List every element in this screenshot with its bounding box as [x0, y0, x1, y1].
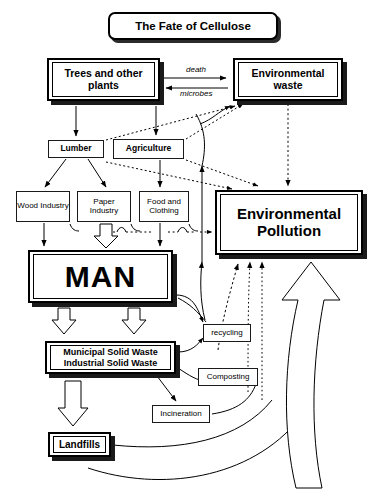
edge-msw-recycling	[178, 338, 203, 352]
edge-man-recycling	[176, 295, 203, 322]
node-lumber: Lumber	[48, 140, 104, 158]
node-environmental-pollution-label: Environmental Pollution	[220, 194, 358, 251]
node-incineration-label: Incineration	[160, 410, 201, 419]
node-municipal-solid-waste-label: Municipal Solid Waste	[63, 347, 158, 357]
node-environmental-waste: Environmental waste	[233, 58, 343, 101]
edge-envwaste-curve	[196, 114, 204, 166]
node-composting: Composting	[198, 368, 258, 386]
node-landfills: Landfills	[48, 432, 111, 457]
hollow-arrow-msw-landfills	[58, 381, 88, 426]
edge-envwaste-feedback	[200, 106, 230, 124]
edge-bottom-sweep	[88, 418, 300, 480]
node-wood-industry-label: Wood Industry	[17, 202, 68, 211]
node-solid-waste: Municipal Solid Waste Industrial Solid W…	[45, 341, 176, 374]
edge-agriculture-pollution	[186, 160, 258, 186]
node-wood-industry: Wood Industry	[16, 191, 70, 222]
edge-hop-a	[70, 224, 79, 231]
edge-incin-sweep	[212, 384, 256, 414]
hollow-arrow-big-pollution	[282, 262, 340, 488]
node-recycling: recycling	[203, 324, 251, 342]
node-environmental-pollution: Environmental Pollution	[215, 190, 363, 255]
node-trees-label: Trees and other plants	[52, 62, 155, 97]
node-paper-industry: Paper Industry	[77, 191, 131, 222]
edge-agriculture-envwaste	[186, 104, 243, 139]
edge-msw-incineration	[157, 376, 176, 401]
node-paper-industry-label: Paper Industry	[78, 198, 130, 216]
node-trees-and-other-plants: Trees and other plants	[47, 58, 160, 101]
hollow-arrow-paper-man	[94, 224, 118, 248]
node-man: MAN	[28, 250, 173, 303]
edge-recycling-man	[178, 298, 206, 322]
hollow-arrow-man-msw-right	[122, 308, 146, 334]
node-agriculture: Agriculture	[113, 139, 184, 159]
edge-lumber-pollution	[106, 162, 232, 189]
node-man-label: MAN	[33, 254, 168, 299]
node-solid-waste-lines: Municipal Solid Waste Industrial Solid W…	[50, 345, 171, 370]
node-environmental-waste-label: Environmental waste	[238, 62, 338, 97]
edge-lumber-paper	[88, 159, 106, 187]
edge-label-death: death	[186, 65, 206, 74]
node-composting-label: Composting	[207, 373, 250, 382]
edge-label-microbes: microbes	[180, 89, 212, 98]
node-food-and-clothing-label: Food and Clothing	[140, 198, 188, 216]
diagram-title-text: The Fate of Cellulose	[135, 20, 251, 32]
node-lumber-label: Lumber	[60, 144, 91, 154]
node-agriculture-label: Agriculture	[126, 144, 171, 154]
edge-lumber-wood	[45, 159, 66, 187]
node-food-and-clothing: Food and Clothing	[139, 191, 189, 222]
fate-of-cellulose-diagram: The Fate of Cellulose Trees and other pl…	[0, 0, 380, 495]
node-landfills-label: Landfills	[53, 436, 106, 453]
edge-recycling-pollution	[201, 262, 205, 320]
edge-hop-b	[131, 224, 140, 231]
hollow-arrow-man-msw-left	[52, 308, 76, 334]
diagram-title: The Fate of Cellulose	[108, 12, 278, 40]
edge-industry-pollution-dashed	[113, 228, 212, 233]
node-incineration: Incineration	[152, 405, 210, 423]
node-recycling-label: recycling	[211, 329, 243, 338]
edge-hop-c	[189, 224, 198, 231]
edge-lumber-envwaste	[106, 106, 235, 140]
node-industrial-solid-waste-label: Industrial Solid Waste	[64, 358, 158, 368]
